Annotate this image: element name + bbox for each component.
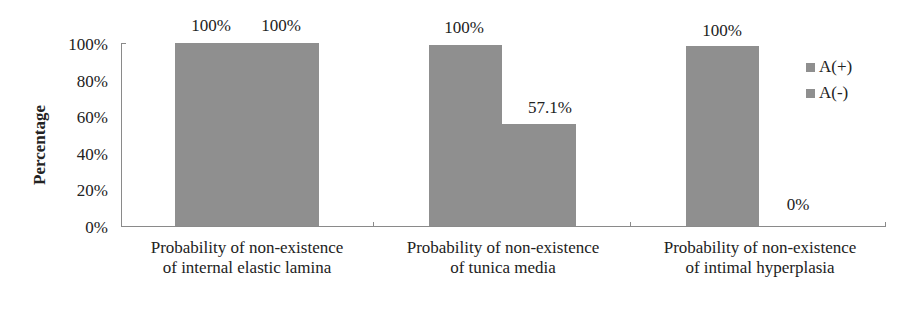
y-axis-top-tick xyxy=(121,43,126,44)
legend: A(+) A(-) xyxy=(806,54,852,106)
bar-a-minus-group-2 xyxy=(502,124,576,226)
category-label-2-line-2: of tunica media xyxy=(373,258,633,278)
legend-item-a-plus: A(+) xyxy=(806,54,852,80)
legend-item-a-minus: A(-) xyxy=(806,80,852,106)
legend-swatch-icon xyxy=(806,89,815,98)
category-label-3-line-1: Probability of non-existence xyxy=(630,238,890,258)
value-label-a-plus-2: 100% xyxy=(424,19,504,36)
x-tick-end xyxy=(885,222,886,227)
y-tick-40: 40% xyxy=(48,146,108,163)
value-label-a-plus-3: 100% xyxy=(682,22,762,39)
bar-a-minus-group-1 xyxy=(247,43,319,226)
x-axis xyxy=(121,226,885,227)
category-label-1-line-2: of internal elastic lamina xyxy=(117,258,377,278)
bar-a-plus-group-3 xyxy=(686,46,759,226)
legend-label-a-plus: A(+) xyxy=(819,54,852,80)
value-label-a-minus-3: 0% xyxy=(758,196,838,213)
category-label-1: Probability of non-existence of internal… xyxy=(117,238,377,279)
x-tick-1 xyxy=(373,222,374,226)
value-label-a-plus-1: 100% xyxy=(171,17,251,34)
category-label-3-line-2: of intimal hyperplasia xyxy=(630,258,890,278)
category-label-2: Probability of non-existence of tunica m… xyxy=(373,238,633,279)
category-label-2-line-1: Probability of non-existence xyxy=(373,238,633,258)
y-tick-80: 80% xyxy=(48,73,108,90)
legend-label-a-minus: A(-) xyxy=(819,80,848,106)
category-label-3: Probability of non-existence of intimal … xyxy=(630,238,890,279)
y-tick-20: 20% xyxy=(48,182,108,199)
y-tick-0: 0% xyxy=(48,219,108,236)
bar-a-plus-group-2 xyxy=(429,45,502,226)
value-label-a-minus-1: 100% xyxy=(241,17,321,34)
y-tick-100: 100% xyxy=(48,36,108,53)
y-axis-label: Percentage xyxy=(30,85,50,205)
category-label-1-line-1: Probability of non-existence xyxy=(117,238,377,258)
y-axis xyxy=(121,43,122,226)
x-tick-2 xyxy=(630,222,631,226)
value-label-a-minus-2: 57.1% xyxy=(510,99,590,116)
legend-swatch-icon xyxy=(806,63,815,72)
bar-a-plus-group-1 xyxy=(175,43,247,226)
y-tick-60: 60% xyxy=(48,109,108,126)
